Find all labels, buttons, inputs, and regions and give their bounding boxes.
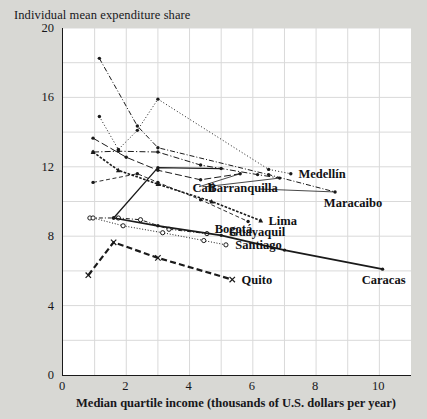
series-label-caracas: Caracas [362, 272, 406, 287]
data-point-marker [156, 181, 159, 184]
series-line [99, 99, 290, 174]
y-tick-label: 4 [0, 298, 54, 313]
x-tick-label: 6 [232, 379, 272, 394]
y-tick-label: 20 [0, 21, 54, 36]
data-point-marker [219, 167, 222, 170]
chart-figure: Individual mean expenditure share Median… [0, 0, 427, 419]
data-point-marker [156, 150, 159, 153]
data-point-marker [111, 240, 116, 245]
data-point-marker [156, 224, 159, 227]
series-label-barranquilla: Barranquilla [208, 181, 277, 196]
series-medell-n [98, 97, 293, 175]
x-axis-title: Median quartile income (thousands of U.S… [62, 396, 410, 411]
data-point-marker [289, 172, 292, 175]
data-point-marker [156, 146, 159, 149]
data-point-marker [138, 218, 142, 222]
data-point-marker [267, 173, 270, 176]
data-point-marker [86, 273, 91, 278]
data-point-marker [199, 198, 202, 201]
y-tick-label: 12 [0, 159, 54, 174]
x-tick-label: 2 [105, 379, 145, 394]
data-point-marker [98, 115, 101, 118]
data-point-marker [136, 129, 139, 132]
series-label-bogot-: Bogotá [215, 222, 253, 237]
series-line [88, 242, 232, 279]
data-point-marker [224, 243, 228, 247]
series-quito [86, 240, 235, 283]
data-point-marker [202, 238, 206, 242]
data-point-marker [91, 136, 94, 139]
data-point-marker [91, 216, 95, 220]
series-label-cali: Cali [193, 181, 215, 196]
series-label-medell-n: Medellín [299, 166, 346, 181]
x-tick-label: 4 [169, 379, 209, 394]
data-point-marker [125, 156, 128, 159]
data-point-marker [267, 168, 270, 171]
x-tick-label: 0 [42, 379, 82, 394]
series-line [93, 151, 280, 178]
data-point-marker [121, 224, 125, 228]
series-cali [91, 136, 242, 181]
series-label-santiago: Santiago [235, 237, 282, 252]
y-tick-label: 16 [0, 90, 54, 105]
data-point-marker [156, 166, 159, 169]
y-tick-label: 8 [0, 229, 54, 244]
series-label-maracaibo: Maracaibo [324, 196, 382, 211]
data-point-marker [283, 248, 286, 251]
data-point-marker [199, 163, 202, 166]
data-point-marker [136, 124, 139, 127]
data-point-marker [112, 216, 115, 219]
data-point-marker [98, 57, 101, 60]
data-point-marker [256, 173, 259, 176]
x-tick-label: 10 [358, 379, 398, 394]
data-point-marker [91, 181, 94, 184]
x-tick-label: 8 [295, 379, 335, 394]
data-point-marker [381, 267, 384, 270]
data-point-marker [161, 231, 165, 235]
data-point-marker [156, 97, 159, 100]
series-bogot--low [88, 216, 209, 236]
series-label-quito: Quito [242, 272, 273, 287]
data-point-marker [117, 149, 120, 152]
data-point-marker [136, 172, 139, 175]
data-point-marker [230, 277, 235, 282]
